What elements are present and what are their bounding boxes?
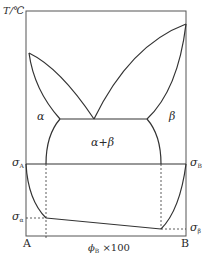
sigma-mix-line <box>46 218 161 229</box>
plot-frame <box>26 11 186 236</box>
sigma-alpha-sub: α <box>20 216 24 223</box>
x-axis-label-suffix: ×100 <box>99 242 130 253</box>
component-a-label: A <box>23 238 31 249</box>
sigma-a-sub: A <box>20 162 24 169</box>
solvus-left <box>46 119 60 164</box>
sigma-a-main: σ <box>12 156 20 169</box>
region-alpha-beta-label: α+β <box>91 137 114 148</box>
sigma-curve-left <box>26 164 46 218</box>
x-axis-label-main: ϕ <box>88 242 95 253</box>
sigma-beta-main: σ <box>190 221 198 234</box>
sigma-curve-right <box>161 164 186 229</box>
region-alpha-label: α <box>37 111 44 122</box>
sigma-b-main: σ <box>190 156 198 169</box>
y-axis-label: T/℃ <box>3 6 24 16</box>
liquidus-right <box>94 24 186 119</box>
sigma-b-label: σB <box>190 157 202 169</box>
component-b-label: B <box>181 238 189 249</box>
y-axis-label-text: T/℃ <box>3 5 24 16</box>
sigma-beta-label: σβ <box>190 222 201 234</box>
region-beta-label: β <box>169 111 175 122</box>
sigma-a-label: σA <box>12 157 24 169</box>
sigma-alpha-label: σα <box>12 211 24 223</box>
sigma-beta-sub: β <box>198 227 201 234</box>
sigma-alpha-main: σ <box>12 210 20 223</box>
diagram-graphics <box>0 0 205 260</box>
solvus-right <box>147 119 161 164</box>
x-axis-label: ϕB ×100 <box>88 243 130 254</box>
phase-diagram: T/℃ α β α+β σA σB σα σβ A B ϕB ×100 <box>0 0 205 260</box>
sigma-b-sub: B <box>198 162 202 169</box>
solidus-right <box>147 24 186 119</box>
